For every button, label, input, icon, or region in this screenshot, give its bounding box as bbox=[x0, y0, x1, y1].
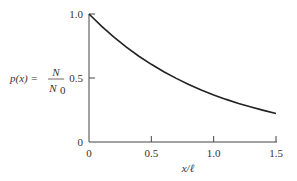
y-axis-lhs: p(x) = bbox=[9, 72, 38, 85]
x-tick-label: 0 bbox=[86, 147, 92, 159]
y-axis-numerator: N bbox=[51, 66, 60, 78]
axes bbox=[89, 14, 277, 142]
y-tick-label: 0.5 bbox=[69, 72, 83, 84]
y-axis-label: p(x) = N N 0 bbox=[9, 66, 66, 96]
y-tick-label: 1.0 bbox=[69, 8, 83, 20]
x-tick-label: 0.5 bbox=[144, 147, 158, 159]
y-axis-denominator: N bbox=[48, 82, 57, 94]
x-axis-label: x/ℓ bbox=[181, 162, 195, 174]
x-tick-label: 1.5 bbox=[269, 147, 283, 159]
x-ticks: 00.51.01.5 bbox=[86, 136, 283, 159]
x-axis-title: x/ℓ bbox=[181, 162, 195, 174]
y-ticks: 00.51.0 bbox=[69, 8, 95, 148]
data-line bbox=[89, 14, 276, 113]
y-tick-label: 0 bbox=[78, 136, 84, 148]
y-axis-denominator-subscript: 0 bbox=[60, 84, 66, 96]
x-tick-label: 1.0 bbox=[207, 147, 221, 159]
chart: 00.51.0 00.51.01.5 x/ℓ p(x) = N N 0 bbox=[0, 0, 297, 181]
